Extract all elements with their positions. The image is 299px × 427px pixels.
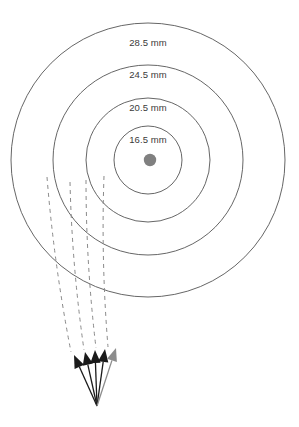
ring-diagram: 28.5 mm 24.5 mm 20.5 mm 16.5 mm (0, 0, 299, 427)
center-dot (144, 154, 156, 166)
ring-label-24: 24.5 mm (129, 69, 167, 80)
ring-label-20: 20.5 mm (129, 102, 167, 113)
ring-label-16: 16.5 mm (129, 134, 167, 145)
diagram-background (0, 0, 299, 427)
ring-label-28: 28.5 mm (129, 37, 167, 48)
diagram-canvas: 28.5 mm 24.5 mm 20.5 mm 16.5 mm (0, 0, 299, 427)
